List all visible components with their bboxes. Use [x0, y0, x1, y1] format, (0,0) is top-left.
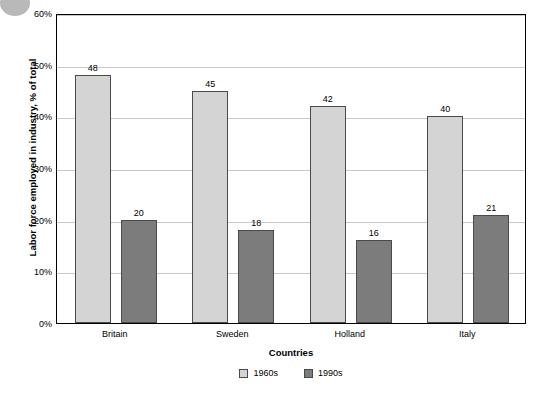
bar-value-label: 48	[75, 63, 111, 73]
bar-value-label: 21	[473, 203, 509, 213]
y-axis-tick-label: 50%	[6, 61, 52, 71]
x-axis-tick-label: Sweden	[216, 329, 249, 339]
x-axis-title: Countries	[56, 347, 526, 358]
gridline	[57, 67, 525, 68]
y-axis-tick-label: 0%	[6, 319, 52, 329]
x-axis-tick-label: Holland	[334, 329, 365, 339]
bar-sweden-1960s	[192, 91, 228, 324]
gridline	[57, 15, 525, 16]
x-axis-tick-labels: BritainSwedenHollandItaly	[56, 329, 526, 343]
legend-swatch	[304, 369, 313, 378]
y-axis-tick-label: 60%	[6, 9, 52, 19]
bar-value-label: 40	[427, 104, 463, 114]
legend-label: 1960s	[253, 368, 278, 378]
y-axis-tick-label: 40%	[6, 112, 52, 122]
legend-label: 1990s	[318, 368, 343, 378]
bar-value-label: 20	[121, 208, 157, 218]
y-axis-tick-label: 20%	[6, 216, 52, 226]
bar-sweden-1990s	[238, 230, 274, 323]
x-axis-tick-label: Britain	[102, 329, 128, 339]
bar-holland-1990s	[356, 240, 392, 323]
bar-britain-1960s	[75, 75, 111, 323]
y-axis-tick-labels: 0%10%20%30%40%50%60%	[2, 14, 52, 324]
legend-item-1990s: 1990s	[304, 368, 343, 378]
bar-italy-1960s	[427, 116, 463, 323]
bar-holland-1960s	[310, 106, 346, 323]
y-axis-tick-label: 10%	[6, 267, 52, 277]
y-axis-tick-label: 30%	[6, 164, 52, 174]
bar-britain-1990s	[121, 220, 157, 323]
bar-value-label: 42	[310, 94, 346, 104]
bar-chart-figure: Labor force employed in industry, % of t…	[0, 0, 548, 393]
bar-value-label: 45	[192, 79, 228, 89]
legend-item-1960s: 1960s	[239, 368, 278, 378]
legend-swatch	[239, 369, 248, 378]
x-axis-tick-label: Italy	[459, 329, 476, 339]
bar-italy-1990s	[473, 215, 509, 324]
bar-value-label: 16	[356, 228, 392, 238]
bar-value-label: 18	[238, 218, 274, 228]
plot-area: 4820451842164021	[56, 14, 526, 324]
chart-legend: 1960s1990s	[56, 368, 526, 378]
